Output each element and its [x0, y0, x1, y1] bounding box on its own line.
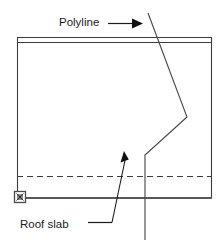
roof-slab-leader-diagonal [112, 158, 126, 223]
cad-drawing-canvas: Polyline Roof slab [0, 0, 224, 249]
roof-slab-label: Roof slab [20, 218, 69, 230]
roof-slab-annotation: Roof slab [20, 151, 129, 230]
roof-slab-outline [16, 37, 212, 199]
polyline-entity[interactable] [145, 13, 187, 240]
polyline-leader-arrowhead [132, 19, 143, 29]
selection-grip-icon[interactable] [15, 192, 26, 203]
cad-drawing-svg: Polyline Roof slab [0, 0, 224, 249]
polyline-annotation: Polyline [59, 16, 143, 29]
polyline-label: Polyline [59, 16, 99, 28]
roof-slab-leader-arrowhead [121, 151, 129, 163]
